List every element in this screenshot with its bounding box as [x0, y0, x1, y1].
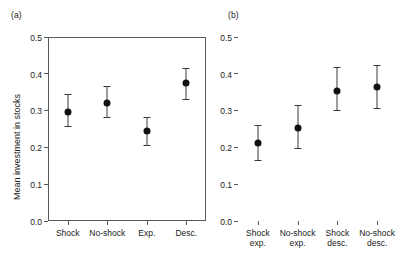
y-axis-tick-mark	[234, 110, 238, 111]
x-axis-tick-label-line: desc.	[359, 238, 395, 248]
error-bar-cap-upper	[143, 117, 150, 118]
y-axis-tick-mark	[234, 37, 238, 38]
y-axis-tick-label: 0.4	[30, 70, 42, 79]
y-axis-tick-mark	[44, 110, 48, 111]
y-axis-tick-label: 0.0	[30, 217, 42, 226]
y-axis-tick-mark	[234, 221, 238, 222]
x-axis-tick-label: No-shock	[89, 228, 125, 238]
error-bar-cap-upper	[334, 67, 341, 68]
data-point-marker	[64, 109, 71, 116]
error-bar-cap-lower	[183, 99, 190, 100]
data-point-marker	[104, 99, 111, 106]
data-point-marker	[334, 88, 341, 95]
data-point-marker	[143, 128, 150, 135]
panel-a-label: (a)	[11, 10, 22, 20]
error-bar-cap-lower	[334, 110, 341, 111]
y-axis-tick-mark	[234, 147, 238, 148]
y-axis-tick-label: 0.2	[220, 144, 232, 153]
x-axis-tick-label-line: Shock	[56, 228, 80, 238]
x-axis-tick-mark	[377, 221, 378, 225]
y-axis-tick-mark	[44, 147, 48, 148]
error-bar-cap-upper	[374, 65, 381, 66]
error-bar-cap-upper	[64, 94, 71, 95]
x-axis-tick-mark	[147, 221, 148, 225]
error-bar-cap-upper	[254, 125, 261, 126]
y-axis-tick-label: 0.5	[30, 33, 42, 42]
x-axis-tick-label-line: Desc.	[175, 228, 197, 238]
x-axis-tick-label: No-shockdesc.	[359, 228, 395, 248]
x-axis-tick-label-line: Exp.	[138, 228, 155, 238]
x-axis-tick-label: No-shockexp.	[280, 228, 316, 248]
error-bar-cap-upper	[294, 105, 301, 106]
error-bar-cap-lower	[104, 117, 111, 118]
y-axis-tick-mark	[44, 37, 48, 38]
y-axis-tick-label: 0.1	[220, 180, 232, 189]
x-axis-tick-mark	[258, 221, 259, 225]
y-axis-tick-label: 0.0	[220, 217, 232, 226]
x-axis-tick-label-line: desc.	[326, 238, 350, 248]
x-axis-tick-mark	[186, 221, 187, 225]
x-axis-tick-label: Shockexp.	[246, 228, 270, 248]
error-bar-cap-lower	[254, 160, 261, 161]
error-bar-cap-lower	[64, 126, 71, 127]
y-axis-tick-mark	[44, 184, 48, 185]
x-axis-tick-label-line: Shock	[326, 228, 350, 238]
panel-b: (b) 0.00.10.20.30.40.5 Shockexp.No-shock…	[210, 0, 407, 272]
x-axis-tick-mark	[298, 221, 299, 225]
y-axis-tick-mark	[44, 73, 48, 74]
y-axis-tick-label: 0.3	[220, 107, 232, 116]
y-axis-tick-label: 0.2	[30, 144, 42, 153]
y-axis-tick-mark	[44, 221, 48, 222]
y-axis-tick-mark	[234, 73, 238, 74]
x-axis-tick-label: Shock	[56, 228, 80, 238]
x-axis-tick-label-line: exp.	[246, 238, 270, 248]
x-axis-tick-label: Shockdesc.	[326, 228, 350, 248]
data-point-marker	[183, 80, 190, 87]
error-bar-cap-lower	[143, 145, 150, 146]
error-bar-cap-lower	[294, 148, 301, 149]
x-axis-tick-label-line: No-shock	[89, 228, 125, 238]
y-axis-label-a: Mean investment in stocks	[12, 94, 22, 200]
y-axis-tick-label: 0.5	[220, 33, 232, 42]
x-axis-tick-mark	[68, 221, 69, 225]
x-axis-tick-label-line: No-shock	[359, 228, 395, 238]
y-axis-tick-mark	[234, 184, 238, 185]
y-axis-tick-label: 0.4	[220, 70, 232, 79]
error-bar-cap-lower	[374, 108, 381, 109]
x-axis-tick-mark	[337, 221, 338, 225]
x-axis-tick-label-line: No-shock	[280, 228, 316, 238]
x-axis-tick-label: Desc.	[175, 228, 197, 238]
data-point-marker	[294, 124, 301, 131]
data-point-marker	[374, 83, 381, 90]
panel-a: (a) Mean investment in stocks 0.00.10.20…	[0, 0, 210, 272]
x-axis-tick-mark	[107, 221, 108, 225]
error-bar-cap-upper	[104, 86, 111, 87]
error-bar-cap-upper	[183, 68, 190, 69]
data-point-marker	[254, 139, 261, 146]
x-axis-tick-label: Exp.	[138, 228, 155, 238]
x-axis-tick-label-line: exp.	[280, 238, 316, 248]
panel-b-label: (b)	[228, 10, 239, 20]
figure-container: (a) Mean investment in stocks 0.00.10.20…	[0, 0, 407, 272]
y-axis-tick-label: 0.1	[30, 180, 42, 189]
x-axis-tick-label-line: Shock	[246, 228, 270, 238]
y-axis-tick-label: 0.3	[30, 107, 42, 116]
plot-area-a	[48, 37, 206, 221]
